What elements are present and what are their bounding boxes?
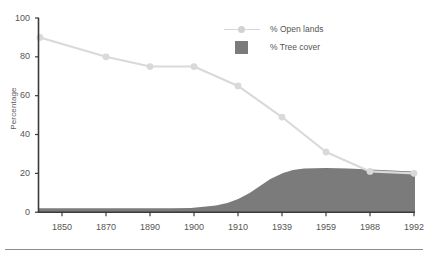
x-tick-label: 1870 bbox=[83, 222, 129, 232]
chart-legend: % Open lands % Tree cover bbox=[224, 20, 404, 56]
legend-label: % Tree cover bbox=[270, 42, 320, 52]
x-tick-label: 1939 bbox=[259, 222, 305, 232]
swatch-wrap bbox=[224, 41, 260, 54]
x-tick-label: 1959 bbox=[303, 222, 349, 232]
bottom-divider bbox=[5, 249, 423, 250]
filled-square-icon bbox=[235, 41, 248, 54]
line-marker-icon bbox=[224, 24, 260, 34]
x-tick-label: 1890 bbox=[127, 222, 173, 232]
x-tick-label: 1900 bbox=[171, 222, 217, 232]
x-tick-label: 1910 bbox=[215, 222, 261, 232]
x-tick-label: 1850 bbox=[39, 222, 85, 232]
legend-item-tree-cover: % Tree cover bbox=[224, 38, 404, 56]
chart-container: Percentage 100 80 60 40 20 0 1850 1870 1… bbox=[0, 0, 428, 263]
legend-item-open-lands: % Open lands bbox=[224, 20, 404, 38]
x-tick-label: 1992 bbox=[391, 222, 428, 232]
legend-label: % Open lands bbox=[270, 24, 323, 34]
x-tick-label: 1988 bbox=[347, 222, 393, 232]
